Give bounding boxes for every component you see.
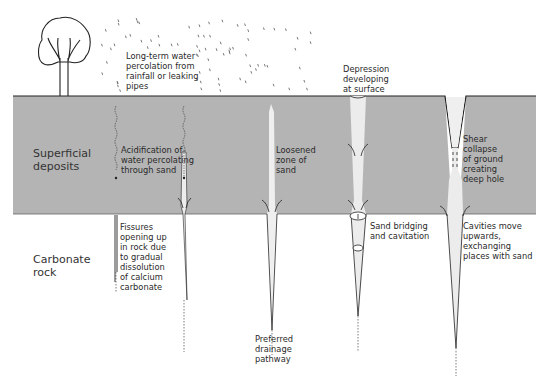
loosened-zone-annotation: Loosened zone of sand xyxy=(276,145,316,175)
carbonate-rock-label: Carbonate rock xyxy=(33,253,90,279)
drainage-annotation: Preferred drainage pathway xyxy=(255,334,293,364)
sinkhole-formation-diagram: Superficial deposits Carbonate rock Long… xyxy=(0,0,542,388)
shear-collapse-annotation: Shear collapse of ground creating deep h… xyxy=(463,134,504,184)
sand-bridging-annotation: Sand bridging and cavitation xyxy=(370,221,429,241)
fissures-annotation: Fissures opening up in rock due to gradu… xyxy=(120,222,167,292)
acidification-annotation: Acidification of water percolating throu… xyxy=(121,145,194,175)
tree-icon xyxy=(39,17,91,96)
cavities-annotation: Cavities move upwards, exchanging places… xyxy=(463,221,532,261)
diagram-canvas xyxy=(0,0,542,388)
rainfall-annotation: Long-term water percolation from rainfal… xyxy=(126,51,199,91)
superficial-deposits-label: Superficial deposits xyxy=(33,147,91,173)
depression-annotation: Depression developing at surface xyxy=(343,64,389,94)
